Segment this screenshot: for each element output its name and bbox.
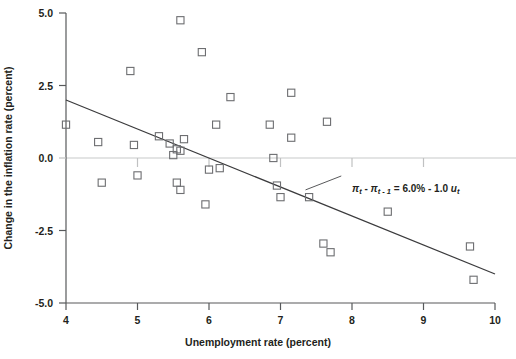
data-point <box>205 166 212 173</box>
x-tick-label: 10 <box>489 314 501 326</box>
phillips-curve-scatter-chart: 5.0 2.5 0.0 -2.5 -5.0 4 5 6 7 8 9 10 Une… <box>0 0 516 359</box>
y-tick-label: -5.0 <box>35 297 53 309</box>
data-point <box>384 208 391 215</box>
y-tick-label: 0.0 <box>38 152 53 164</box>
data-point <box>95 138 102 145</box>
x-tick-label: 4 <box>63 314 69 326</box>
x-tick-label: 7 <box>278 314 284 326</box>
equation-rhs: = 6.0% - 1.0 <box>394 183 448 194</box>
data-point <box>177 186 184 193</box>
y-axis <box>59 13 66 303</box>
data-point <box>173 179 180 186</box>
data-point <box>323 118 330 125</box>
data-point <box>177 17 184 24</box>
pi-symbol-lagged: π <box>371 183 378 194</box>
data-point <box>180 136 187 143</box>
chart-canvas: 5.0 2.5 0.0 -2.5 -5.0 4 5 6 7 8 9 10 <box>0 0 516 359</box>
data-point <box>98 179 105 186</box>
data-point <box>288 89 295 96</box>
y-axis-title-wrapper: Change in the inflation rate (percent) <box>2 303 16 359</box>
x-tick-label: 9 <box>421 314 427 326</box>
data-point <box>466 243 473 250</box>
y-tick-label: 2.5 <box>38 80 53 92</box>
y-axis-title: Change in the inflation rate (percent) <box>2 13 16 303</box>
data-point <box>213 121 220 128</box>
annotation-leader-line <box>306 176 342 190</box>
pi-subscript-t-minus-1: t - 1 <box>378 187 391 196</box>
data-point <box>134 172 141 179</box>
data-point <box>288 134 295 141</box>
pi-subscript-t: t <box>359 187 362 196</box>
data-point <box>130 141 137 148</box>
data-point <box>327 249 334 256</box>
x-tick-label: 6 <box>206 314 212 326</box>
x-tick-labels: 4 5 6 7 8 9 10 <box>63 314 501 326</box>
y-tick-label: -2.5 <box>35 225 53 237</box>
data-point <box>320 240 327 247</box>
u-subscript-t: t <box>457 187 460 196</box>
data-point <box>198 49 205 56</box>
x-axis <box>66 158 495 310</box>
data-point <box>127 67 134 74</box>
data-point <box>277 194 284 201</box>
y-tick-labels: 5.0 2.5 0.0 -2.5 -5.0 <box>35 7 53 309</box>
minus-sign: - <box>364 183 367 194</box>
x-axis-title: Unemployment rate (percent) <box>0 336 516 348</box>
x-tick-label: 5 <box>135 314 141 326</box>
data-point <box>266 121 273 128</box>
y-tick-label: 5.0 <box>38 7 53 19</box>
x-tick-label: 8 <box>349 314 355 326</box>
data-point <box>202 201 209 208</box>
data-point <box>227 94 234 101</box>
data-point <box>216 165 223 172</box>
data-point-group <box>62 17 477 284</box>
fit-line-equation-annotation: πt - πt - 1 = 6.0% - 1.0 ut <box>352 183 459 196</box>
data-point <box>470 276 477 283</box>
